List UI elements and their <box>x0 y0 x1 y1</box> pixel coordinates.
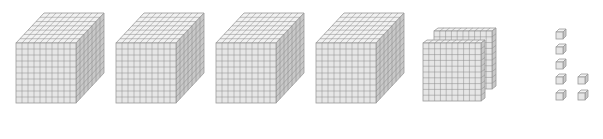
blocks-canvas <box>0 0 603 139</box>
front-face <box>578 93 585 100</box>
hundreds-group <box>423 28 496 101</box>
unit-cube-1 <box>556 29 566 39</box>
hundred-flat-2 <box>423 40 485 101</box>
thousand-cube-4 <box>316 13 404 103</box>
unit-cube-4 <box>556 74 566 84</box>
front-face <box>556 62 563 69</box>
unit-cube-2 <box>556 44 566 54</box>
unit-cube-3 <box>556 59 566 69</box>
front-face <box>556 32 563 39</box>
front-face <box>556 93 563 100</box>
front-face <box>578 77 585 84</box>
ones-group <box>556 29 588 100</box>
thousand-cube-1 <box>16 13 104 103</box>
front-face <box>556 77 563 84</box>
unit-cube-7 <box>578 90 588 100</box>
thousand-cube-2 <box>116 13 204 103</box>
thousands-group <box>16 13 404 103</box>
unit-cube-6 <box>556 90 566 100</box>
base-ten-blocks-diagram <box>0 0 603 139</box>
thousand-cube-3 <box>216 13 304 103</box>
front-face <box>556 47 563 54</box>
unit-cube-5 <box>578 74 588 84</box>
